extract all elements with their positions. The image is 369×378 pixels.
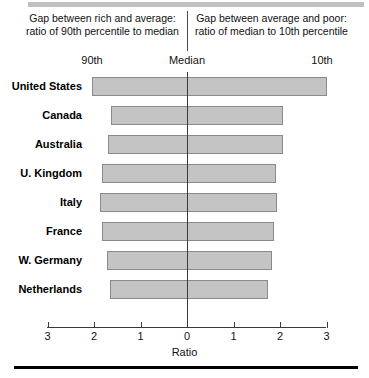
- axis-tick: [48, 322, 49, 328]
- bottom-thick-rule: [14, 366, 358, 369]
- axis-tick: [141, 322, 142, 328]
- country-label: Canada: [0, 109, 82, 121]
- chart-row: Australia: [0, 133, 369, 162]
- chart-bar: [111, 106, 283, 125]
- axis-title-ratio: Ratio: [0, 346, 369, 358]
- axis-tick-label: 2: [277, 330, 283, 342]
- chart-row: Netherlands: [0, 278, 369, 307]
- country-label: Italy: [0, 196, 82, 208]
- country-label: W. Germany: [0, 254, 82, 266]
- chart-bar: [108, 135, 283, 154]
- chart-bar: [107, 251, 272, 270]
- chart-bar: [102, 164, 276, 183]
- chart-bar: [92, 77, 327, 96]
- chart-row: Canada: [0, 104, 369, 133]
- axis-tick-label: 3: [323, 330, 329, 342]
- income-ratio-diverging-bar-chart: Gap between rich and average: ratio of 9…: [0, 0, 369, 378]
- country-label: Netherlands: [0, 283, 82, 295]
- chart-bar: [100, 193, 277, 212]
- axis-tick-label: 2: [91, 330, 97, 342]
- chart-row: W. Germany: [0, 249, 369, 278]
- top-axis-label-median: Median: [169, 54, 205, 66]
- top-axis-labels: 90th Median 10th: [0, 54, 369, 70]
- median-zero-line: [187, 72, 188, 324]
- axis-tick-label: 3: [44, 330, 50, 342]
- top-axis-label-10th: 10th: [311, 54, 332, 66]
- chart-row: United States: [0, 75, 369, 104]
- header-divider: [187, 11, 188, 51]
- axis-tick-label: 1: [137, 330, 143, 342]
- chart-row: France: [0, 220, 369, 249]
- top-decorative-rule: [28, 2, 364, 7]
- chart-row: U. Kingdom: [0, 162, 369, 191]
- country-label: United States: [0, 80, 82, 92]
- country-label: U. Kingdom: [0, 167, 82, 179]
- bottom-axis: Ratio 3210123: [0, 322, 369, 362]
- country-label: Australia: [0, 138, 82, 150]
- axis-tick-label: 1: [230, 330, 236, 342]
- plot-area: United StatesCanadaAustraliaU. KingdomIt…: [0, 72, 369, 320]
- axis-tick: [94, 322, 95, 328]
- header-caption-right: Gap between average and poor: ratio of m…: [187, 12, 352, 48]
- chart-bar: [110, 280, 268, 299]
- chart-row: Italy: [0, 191, 369, 220]
- axis-tick-label: 0: [184, 330, 190, 342]
- axis-tick: [234, 322, 235, 328]
- axis-tick: [327, 322, 328, 328]
- country-label: France: [0, 225, 82, 237]
- header-caption-left: Gap between rich and average: ratio of 9…: [22, 12, 187, 48]
- top-axis-label-90th: 90th: [81, 54, 102, 66]
- axis-tick: [280, 322, 281, 328]
